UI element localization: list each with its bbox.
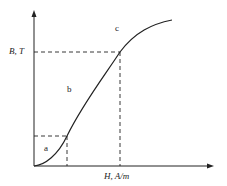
region-b-label: b: [67, 84, 72, 94]
region-a-label: a: [44, 143, 48, 153]
x-axis-arrow-icon: [207, 164, 214, 169]
y-axis-arrow-icon: [32, 10, 37, 17]
y-axis-label: B, T: [9, 46, 24, 56]
region-c-label: c: [115, 23, 119, 33]
bh-curve-diagram: [0, 0, 227, 186]
x-axis-label: H, A/m: [104, 171, 129, 181]
magnetization-curve: [34, 20, 172, 166]
